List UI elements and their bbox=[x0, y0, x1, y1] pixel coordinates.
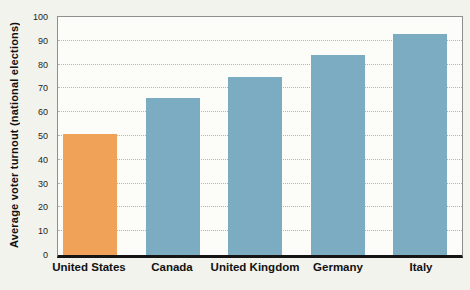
y-tick-label-10: 10 bbox=[0, 226, 52, 236]
bar-united-states bbox=[63, 134, 117, 255]
y-tick-label-60: 60 bbox=[0, 107, 52, 117]
x-label-text: United States bbox=[52, 261, 126, 273]
y-axis-tick-labels: 0102030405060708090100 bbox=[0, 17, 52, 255]
y-tick-label-90: 90 bbox=[0, 36, 52, 46]
bars-group bbox=[58, 17, 462, 255]
y-tick-label-50: 50 bbox=[0, 131, 52, 141]
y-tick-label-40: 40 bbox=[0, 155, 52, 165]
y-tick-label-0: 0 bbox=[0, 250, 52, 260]
bar-united-kingdom bbox=[228, 77, 282, 256]
y-tick-label-20: 20 bbox=[0, 202, 52, 212]
x-label-canada: Canada bbox=[145, 261, 199, 273]
x-label-text: Germany bbox=[313, 261, 363, 273]
x-label-italy: Italy bbox=[394, 261, 448, 273]
plot-area bbox=[57, 16, 463, 258]
bar-italy bbox=[393, 34, 447, 255]
y-tick-label-100: 100 bbox=[0, 12, 52, 22]
voter-turnout-bar-chart: Average voter turnout (national election… bbox=[0, 0, 470, 290]
x-label-text: Canada bbox=[151, 261, 193, 273]
x-label-united-states: United States bbox=[62, 261, 116, 273]
bar-canada bbox=[146, 98, 200, 255]
x-label-united-kingdom: United Kingdom bbox=[228, 261, 282, 273]
x-label-text: Italy bbox=[409, 261, 432, 273]
bar-germany bbox=[311, 55, 365, 255]
y-tick-label-70: 70 bbox=[0, 83, 52, 93]
x-label-text: United Kingdom bbox=[211, 261, 300, 273]
y-tick-label-80: 80 bbox=[0, 60, 52, 70]
y-tick-label-30: 30 bbox=[0, 179, 52, 189]
x-axis-category-labels: United StatesCanadaUnited KingdomGermany… bbox=[57, 261, 463, 273]
x-label-germany: Germany bbox=[311, 261, 365, 273]
